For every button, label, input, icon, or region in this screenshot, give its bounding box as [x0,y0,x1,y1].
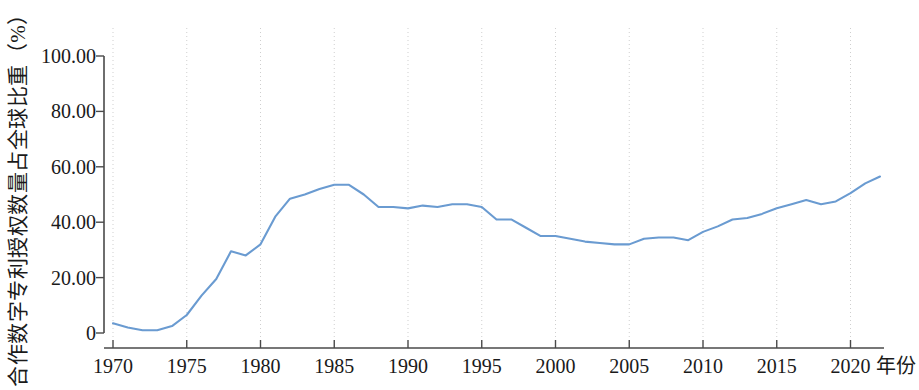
x-tick-label-1995: 1995 [462,356,502,376]
x-tick-label-1970: 1970 [93,356,133,376]
x-axis-tick-labels: 1970197519801985199019952000200520102015… [0,0,919,390]
x-tick-label-2015: 2015 [757,356,797,376]
x-tick-label-2005: 2005 [609,356,649,376]
x-tick-label-1990: 1990 [388,356,428,376]
x-tick-label-2020: 2020 [831,356,871,376]
x-tick-label-1975: 1975 [167,356,207,376]
x-tick-label-1985: 1985 [314,356,354,376]
x-tick-label-2000: 2000 [536,356,576,376]
x-tick-label-2010: 2010 [683,356,723,376]
x-tick-label-1980: 1980 [241,356,281,376]
x-axis-title: 年份 [876,356,916,376]
line-chart-figure: 合作数字专利授权数量占全球比重（%） 100.0080.0060.0040.00… [0,0,919,390]
